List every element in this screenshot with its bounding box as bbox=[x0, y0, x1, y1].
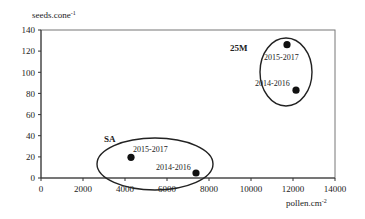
group-25m: 25M 2015-2017 2014-2016 bbox=[230, 38, 312, 106]
svg-text:60: 60 bbox=[26, 110, 36, 120]
data-point bbox=[127, 154, 134, 161]
point-label: 2014-2016 bbox=[255, 79, 290, 88]
group-sa: SA 2015-2017 2014-2016 bbox=[97, 134, 213, 190]
x-axis-title: pollen.cm-2 bbox=[286, 198, 327, 208]
data-point bbox=[292, 87, 299, 94]
svg-text:100: 100 bbox=[22, 68, 36, 78]
point-label: 2014-2016 bbox=[156, 163, 191, 172]
x-tick-labels: 0 2000 4000 6000 8000 10000 12000 14000 bbox=[39, 184, 347, 194]
y-axis-title: seeds.cone-1 bbox=[32, 10, 76, 20]
sa-label: SA bbox=[104, 134, 116, 144]
svg-text:8000: 8000 bbox=[200, 184, 219, 194]
svg-text:20: 20 bbox=[26, 152, 36, 162]
scatter-chart: 0 20 40 60 80 100 120 140 0 2000 4000 60… bbox=[0, 0, 365, 219]
data-point bbox=[283, 41, 290, 48]
svg-text:4000: 4000 bbox=[116, 184, 135, 194]
point-label: 2015-2017 bbox=[133, 145, 168, 154]
svg-text:0: 0 bbox=[39, 184, 44, 194]
25m-ellipse bbox=[260, 38, 312, 106]
svg-text:0: 0 bbox=[31, 173, 36, 183]
svg-text:40: 40 bbox=[26, 131, 36, 141]
y-tick-labels: 0 20 40 60 80 100 120 140 bbox=[22, 25, 36, 183]
svg-text:10000: 10000 bbox=[240, 184, 263, 194]
svg-text:2000: 2000 bbox=[74, 184, 93, 194]
point-label: 2015-2017 bbox=[264, 53, 299, 62]
svg-text:140: 140 bbox=[22, 25, 36, 35]
data-point bbox=[192, 169, 199, 176]
25m-label: 25M bbox=[230, 43, 248, 53]
svg-text:120: 120 bbox=[22, 46, 36, 56]
svg-text:12000: 12000 bbox=[282, 184, 305, 194]
svg-text:14000: 14000 bbox=[324, 184, 347, 194]
svg-text:80: 80 bbox=[26, 89, 36, 99]
